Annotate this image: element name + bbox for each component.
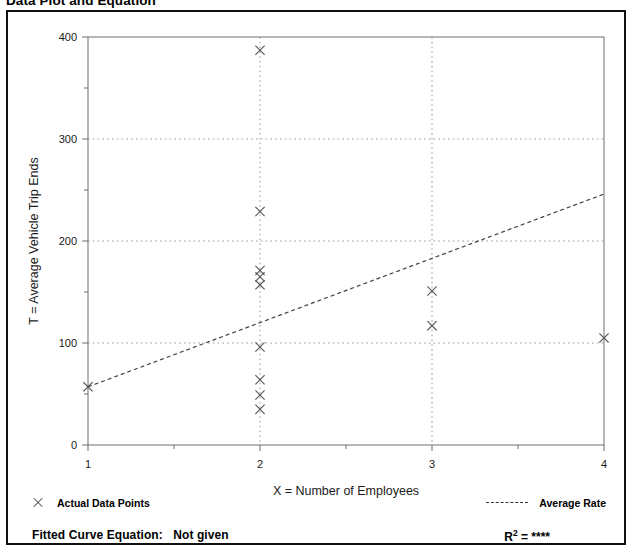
y-tick-label: 100 [59, 337, 77, 349]
average-rate-trendline [88, 194, 604, 387]
legend-entry-data-points: Actual Data Points [32, 497, 150, 509]
x-tick-label: 4 [601, 458, 607, 470]
r-equals: = [521, 530, 528, 544]
y-tick-label: 200 [59, 235, 77, 247]
r-squared-value: R2 = **** [504, 528, 550, 544]
scatter-plot-svg: 1234 0100200300400 X = Number of Employe… [8, 12, 628, 547]
y-axis-title: T = Average Vehicle Trip Ends [27, 157, 41, 324]
r-symbol: R [504, 530, 513, 544]
figure-frame: 1234 0100200300400 X = Number of Employe… [6, 10, 626, 545]
x-tick-label: 1 [85, 458, 91, 470]
x-axis-tick-labels: 1234 [85, 458, 607, 470]
data-point-marker [427, 321, 436, 330]
plot-area: 1234 0100200300400 X = Number of Employe… [8, 12, 628, 547]
chart-legend: Actual Data Points Average Rate [8, 497, 628, 519]
y-tick-label: 300 [59, 133, 77, 145]
legend-entry-average-rate: Average Rate [486, 497, 606, 509]
dashed-line-icon [486, 502, 528, 504]
fitted-curve-equation-value: Not given [173, 528, 229, 542]
legend-label-average-rate: Average Rate [539, 497, 606, 509]
x-marker-icon [32, 497, 44, 509]
r-squared-stars: **** [531, 530, 550, 544]
x-axis-title: X = Number of Employees [273, 484, 419, 498]
y-tick-label: 0 [71, 439, 77, 451]
average-rate-line [88, 194, 604, 387]
chart-footer: Fitted Curve Equation: Not given R2 = **… [8, 528, 628, 550]
axis-ticks [82, 37, 604, 451]
fitted-curve-equation-label: Fitted Curve Equation: [32, 528, 163, 542]
r-exponent: 2 [513, 528, 518, 538]
grid-lines [88, 37, 604, 445]
x-tick-label: 3 [429, 458, 435, 470]
y-tick-label: 400 [59, 31, 77, 43]
fitted-curve-equation: Fitted Curve Equation: Not given [32, 528, 229, 542]
x-axis-label-text: X = Number of Employees [273, 484, 419, 498]
page-title: Data Plot and Equation [6, 0, 156, 8]
legend-label-data-points: Actual Data Points [57, 497, 150, 509]
x-tick-label: 2 [257, 458, 263, 470]
y-axis-tick-labels: 0100200300400 [59, 31, 77, 451]
y-axis-label-text: T = Average Vehicle Trip Ends [27, 157, 41, 324]
